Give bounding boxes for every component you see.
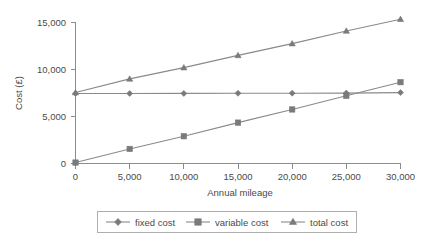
y-tick-label-5000: 5,000 <box>42 111 66 122</box>
legend-label-fixed-cost: fixed cost <box>135 217 175 228</box>
x-tick-label-30000: 30,000 <box>386 171 415 182</box>
line-chart: 0 5,000 10,000 15,000 0 5,000 10,000 15,… <box>0 0 439 241</box>
diamond-marker-icon <box>289 90 295 96</box>
y-axis-title: Cost (£) <box>13 76 24 110</box>
square-marker-icon <box>181 134 186 139</box>
diamond-marker-icon <box>398 90 404 96</box>
x-axis-title: Annual mileage <box>207 187 273 198</box>
x-tick-label-5000: 5,000 <box>118 171 142 182</box>
y-tick-label-10000: 10,000 <box>37 64 66 75</box>
y-tick-label-15000: 15,000 <box>37 17 66 28</box>
x-tick-label-0: 0 <box>73 171 78 182</box>
chart-canvas: 0 5,000 10,000 15,000 0 5,000 10,000 15,… <box>0 0 439 241</box>
series-total-cost <box>72 16 403 95</box>
x-tick-label-20000: 20,000 <box>278 171 307 182</box>
square-marker-icon <box>289 107 294 112</box>
square-marker-icon <box>398 79 403 84</box>
legend-label-total-cost: total cost <box>310 217 348 228</box>
square-marker-icon <box>344 93 349 98</box>
x-tick-label-25000: 25,000 <box>332 171 361 182</box>
chart-legend: fixed cost variable cost total cost <box>98 212 357 233</box>
legend-label-variable-cost: variable cost <box>215 217 269 228</box>
diamond-marker-icon <box>181 90 187 96</box>
x-axis-ticks: 0 5,000 10,000 15,000 20,000 25,000 30,0… <box>73 164 415 183</box>
square-marker-icon <box>73 160 78 165</box>
diamond-marker-icon <box>235 90 241 96</box>
series-layer <box>72 16 403 165</box>
square-marker-icon <box>195 219 201 225</box>
x-tick-label-15000: 15,000 <box>223 171 252 182</box>
diamond-marker-icon <box>127 90 133 96</box>
triangle-marker-icon <box>397 16 403 21</box>
square-marker-icon <box>235 120 240 125</box>
y-axis-ticks: 0 5,000 10,000 15,000 <box>37 17 76 169</box>
y-tick-label-0: 0 <box>61 158 66 169</box>
series-fixed-cost <box>73 90 404 97</box>
x-tick-label-10000: 10,000 <box>169 171 198 182</box>
square-marker-icon <box>127 146 132 151</box>
